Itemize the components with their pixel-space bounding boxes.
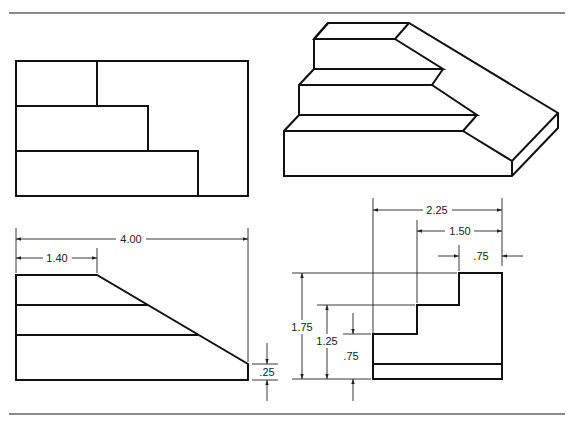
dim-4-00: 4.00	[120, 233, 141, 245]
top-view	[16, 61, 248, 196]
top-view-step-1	[16, 61, 97, 106]
iso-step-riser-1	[299, 69, 443, 85]
dim-1-25: 1.25	[316, 335, 337, 347]
drawing-canvas: 4.00 1.40 .25 2.25 1.50 .75	[0, 0, 573, 421]
iso-step-edge-2	[299, 85, 477, 115]
isometric-view	[284, 23, 558, 176]
front-view-outline	[16, 275, 248, 380]
top-view-step-2	[16, 106, 148, 151]
dim-0-75-height: .75	[343, 350, 358, 362]
dim-0-25: .25	[259, 366, 274, 378]
iso-outline	[284, 23, 558, 176]
top-view-outline	[16, 61, 248, 196]
dim-1-75: 1.75	[291, 321, 312, 333]
iso-top-step	[314, 23, 409, 39]
top-view-step-3	[16, 151, 198, 196]
front-view: 4.00 1.40 .25	[16, 228, 278, 401]
right-view: 2.25 1.50 .75 1.75 1.25 .75	[291, 198, 523, 401]
iso-step-edge-1	[314, 39, 443, 69]
dim-1-40: 1.40	[46, 252, 67, 264]
iso-slope-edge	[463, 113, 558, 161]
iso-step-riser-2	[284, 115, 477, 131]
dim-2-25: 2.25	[426, 204, 447, 216]
dim-0-75-depth: .75	[473, 250, 488, 262]
dim-1-50: 1.50	[449, 225, 470, 237]
